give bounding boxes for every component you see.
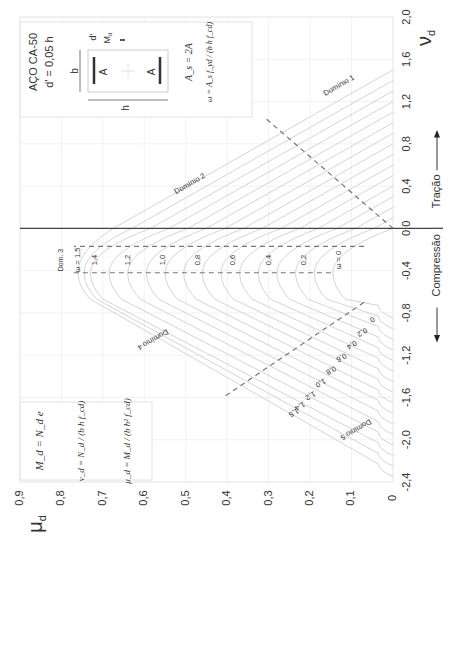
curve-label: 0,8 xyxy=(193,255,202,265)
nu-equation: ν_d = N_d / (b h f_cd) xyxy=(76,401,86,482)
curve-label-lower: 0,8 xyxy=(324,364,338,377)
nu-tick-label: -1,2 xyxy=(400,346,412,365)
curve-label: 1,4 xyxy=(90,255,99,265)
area-equation: A_s = 2A xyxy=(183,42,194,82)
curve-label: ω = 1,5 xyxy=(73,248,82,273)
mu-tick-label: 0,9 xyxy=(13,490,25,505)
nu-tick-label: 0,0 xyxy=(400,221,412,236)
nu-tick-label: -2,4 xyxy=(400,473,412,492)
bar-label-a: A xyxy=(146,68,157,75)
mu-equation: μ_d = M_d / (b h² f_cd) xyxy=(122,398,132,484)
nu-tick-label: 2,0 xyxy=(400,9,412,24)
curve-label: 1,2 xyxy=(123,255,132,265)
dim-d-prime: d' xyxy=(88,33,98,40)
nu-tick-label: 1,6 xyxy=(400,52,412,67)
mu-tick-label: 0,6 xyxy=(137,490,149,505)
nu-tick-label: 1,2 xyxy=(400,94,412,109)
mu-tick-label: 0,1 xyxy=(344,490,356,505)
omega-curve xyxy=(333,228,393,318)
nu-tick-label: 0,4 xyxy=(400,178,412,193)
omega-equation: ω = A_s f_yd / (b h f_cd) xyxy=(205,22,214,102)
dim-h: h xyxy=(120,105,131,111)
curve-label: 1,0 xyxy=(158,255,167,265)
steel-label: AÇO CA-50 xyxy=(27,33,39,91)
domain-label: Domínio 4 xyxy=(136,327,170,352)
tension-label: Tração xyxy=(430,174,442,208)
chart-labels: TraçãoCompressãoω = 1,51,41,21,00,80,60,… xyxy=(57,73,443,442)
curve-label-lower: 0,4 xyxy=(345,339,359,352)
domain-label: Domínio 2 xyxy=(173,171,207,196)
domain-boundary-4-5 xyxy=(223,302,364,397)
mu-tick-label: 0,2 xyxy=(303,490,315,505)
arrow-down-icon xyxy=(434,335,440,342)
bar-label-a: A xyxy=(98,68,109,75)
moment-equation: M_d = N_d e xyxy=(33,411,45,471)
arrow-up-icon xyxy=(434,130,440,137)
curve-label: 0,2 xyxy=(299,255,308,265)
curve-label: 0,6 xyxy=(228,255,237,265)
nu-tick-label: 0,8 xyxy=(400,136,412,151)
curve-label: ω = 0 xyxy=(334,251,343,270)
mu-tick-label: 0,8 xyxy=(54,490,66,505)
cover-label: d' = 0,05 h xyxy=(43,36,55,87)
interaction-diagram: 2,01,61,20,80,40,0-0,4-0,8-1,2-1,6-2,0-2… xyxy=(0,0,457,650)
nu-tick-label: -0,8 xyxy=(400,303,412,322)
nu-tick-label: -2,0 xyxy=(400,430,412,449)
dim-b: b xyxy=(69,68,80,74)
compression-label: Compressão xyxy=(430,234,442,296)
nu-tick-label: -1,6 xyxy=(400,388,412,407)
curve-label-lower: 1,2 xyxy=(304,389,318,402)
omega-curve xyxy=(109,102,393,446)
mu-tick-label: 0,5 xyxy=(179,490,191,505)
domain-3-label: Dom. 3 xyxy=(57,249,64,272)
curve-label-lower: 1,0 xyxy=(314,377,328,390)
mu-tick-label: 0,3 xyxy=(262,490,274,505)
nu-tick-label: -0,4 xyxy=(400,261,412,280)
mu-tick-label: 0 xyxy=(386,495,398,501)
section-legend-box: AÇO CA-50d' = 0,05 hAAbhd'MdA_s = 2Aω = … xyxy=(20,22,252,117)
nu-axis-title: νd xyxy=(413,30,437,46)
formula-legend-box: M_d = N_d eν_d = N_d / (b h f_cd)μ_d = M… xyxy=(20,398,152,484)
mu-tick-label: 0,7 xyxy=(96,490,108,505)
mu-tick-label: 0,4 xyxy=(220,490,232,505)
curve-label: 0,4 xyxy=(264,255,273,265)
omega-curve xyxy=(91,91,394,456)
mu-axis-title: μd xyxy=(24,515,48,533)
